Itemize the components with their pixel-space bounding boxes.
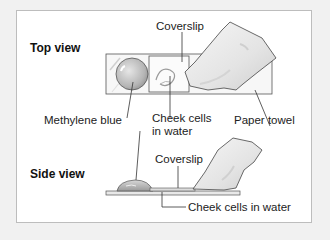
label-cheek-cells-line2: in water xyxy=(152,125,192,138)
side-view-heading: Side view xyxy=(30,167,85,181)
label-cheek-cells-line1: Cheek cells xyxy=(152,112,211,125)
coverslip-side xyxy=(150,188,195,191)
label-methylene-blue: Methylene blue xyxy=(44,114,122,127)
paper-towel-side xyxy=(193,138,262,190)
side-view-slide xyxy=(106,191,240,195)
methylene-blue-drop-side xyxy=(117,180,153,191)
label-coverslip-top: Coverslip xyxy=(156,20,204,33)
label-paper-towel: Paper towel xyxy=(234,114,295,127)
side-view-leader-lines xyxy=(136,131,186,207)
top-view-heading: Top view xyxy=(30,41,80,55)
methylene-blue-drop-top xyxy=(116,58,148,90)
coverslip-top xyxy=(149,56,189,92)
label-coverslip-side: Coverslip xyxy=(155,153,203,166)
label-cheek-cells-side: Cheek cells in water xyxy=(188,201,291,214)
